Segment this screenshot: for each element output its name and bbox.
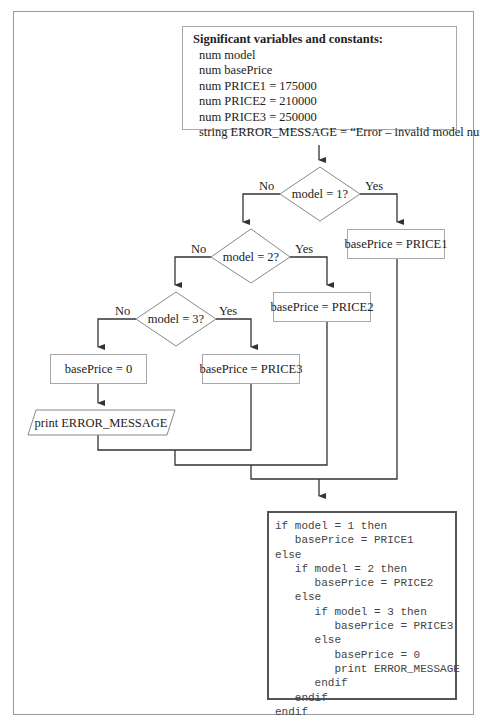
- decision-2-label: model = 2?: [223, 250, 279, 265]
- process-price2: basePrice = PRICE2: [273, 292, 371, 322]
- process-price1: basePrice = PRICE1: [347, 229, 445, 259]
- code-line: if model = 1 then: [275, 519, 455, 533]
- code-line: endif: [275, 705, 455, 719]
- variable-line: num PRICE3 = 250000: [193, 110, 456, 126]
- decision-2-no: No: [191, 242, 206, 257]
- variable-line: string ERROR_MESSAGE = “Error – invalid …: [193, 125, 456, 141]
- variable-line: num PRICE1 = 175000: [193, 79, 456, 95]
- code-line: endif: [275, 676, 455, 690]
- decision-1-yes: Yes: [365, 179, 383, 194]
- code-line: basePrice = 0: [275, 648, 455, 662]
- code-line: basePrice = PRICE2: [275, 576, 455, 590]
- code-line: if model = 3 then: [275, 605, 455, 619]
- code-line: basePrice = PRICE3: [275, 619, 455, 633]
- code-line: else: [275, 548, 455, 562]
- code-line: else: [275, 590, 455, 604]
- process-zero: basePrice = 0: [50, 354, 147, 384]
- code-line: endif: [275, 691, 455, 705]
- output-label: print ERROR_MESSAGE: [34, 416, 167, 431]
- variable-line: num PRICE2 = 210000: [193, 94, 456, 110]
- decision-1-label: model = 1?: [292, 187, 348, 202]
- variable-line: num basePrice: [193, 63, 456, 79]
- decision-3-label: model = 3?: [148, 312, 204, 327]
- decision-3-yes: Yes: [219, 304, 237, 319]
- decision-2-yes: Yes: [295, 242, 313, 257]
- variables-title: Significant variables and constants:: [193, 32, 456, 48]
- pseudocode-box: if model = 1 then basePrice = PRICE1else…: [267, 511, 457, 700]
- code-line: else: [275, 633, 455, 647]
- variable-line: num model: [193, 48, 456, 64]
- decision-1-no: No: [259, 179, 274, 194]
- code-line: basePrice = PRICE1: [275, 533, 455, 547]
- variables-box: Significant variables and constants: num…: [182, 26, 457, 130]
- code-line: if model = 2 then: [275, 562, 455, 576]
- process-price3: basePrice = PRICE3: [202, 354, 300, 384]
- code-line: print ERROR_MESSAGE: [275, 662, 455, 676]
- decision-3-no: No: [115, 304, 130, 319]
